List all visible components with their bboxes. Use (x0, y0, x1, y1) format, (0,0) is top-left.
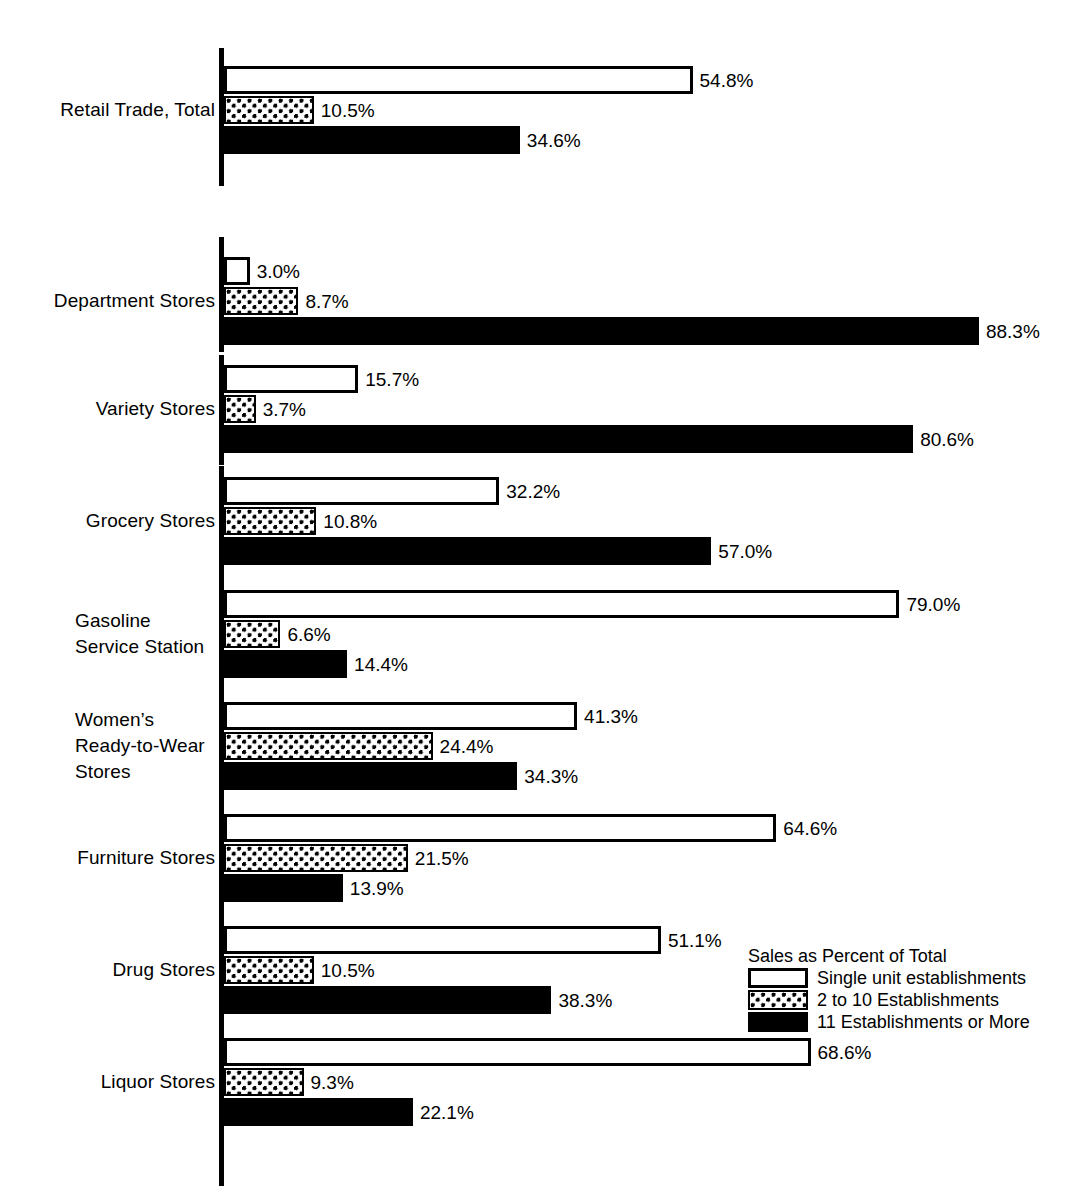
category-label-line: Retail Trade, Total (0, 97, 215, 123)
bar-grocery-stores-eleven (224, 537, 711, 565)
bar-variety-stores-multi (224, 395, 256, 423)
bar-furniture-stores-multi (224, 844, 408, 872)
value-label-grocery-stores-eleven: 57.0% (718, 542, 772, 561)
bar-liquor-stores-single (224, 1038, 811, 1066)
value-label-liquor-stores-single: 68.6% (818, 1043, 872, 1062)
value-label-womens-ready-to-wear-stores-eleven: 34.3% (524, 767, 578, 786)
value-label-drug-stores-multi: 10.5% (321, 961, 375, 980)
bar-variety-stores-single (224, 365, 358, 393)
value-label-furniture-stores-multi: 21.5% (415, 849, 469, 868)
bar-drug-stores-eleven (224, 986, 551, 1014)
value-label-gasoline-service-station-single: 79.0% (906, 595, 960, 614)
bar-drug-stores-single (224, 926, 661, 954)
category-label-womens-ready-to-wear-stores: Women’sReady-to-WearStores (75, 707, 215, 785)
category-label-line: Variety Stores (0, 396, 215, 422)
value-label-variety-stores-eleven: 80.6% (920, 430, 974, 449)
value-label-drug-stores-eleven: 38.3% (558, 991, 612, 1010)
value-label-retail-trade-total-single: 54.8% (700, 71, 754, 90)
value-label-gasoline-service-station-eleven: 14.4% (354, 655, 408, 674)
value-label-gasoline-service-station-multi: 6.6% (287, 625, 330, 644)
bar-gasoline-service-station-single (224, 590, 899, 618)
category-label-line: Service Station (75, 634, 215, 660)
value-label-grocery-stores-multi: 10.8% (323, 512, 377, 531)
category-label-gasoline-service-station: GasolineService Station (75, 608, 215, 660)
bar-retail-trade-total-multi (224, 96, 314, 124)
bar-furniture-stores-eleven (224, 874, 343, 902)
value-label-department-stores-single: 3.0% (257, 262, 300, 281)
bar-drug-stores-multi (224, 956, 314, 984)
bar-chart: 54.8%10.5%34.6%Retail Trade, Total3.0%8.… (0, 0, 1073, 1204)
legend-label-eleven: 11 Establishments or More (817, 1011, 1030, 1033)
value-label-womens-ready-to-wear-stores-single: 41.3% (584, 707, 638, 726)
legend-swatch-eleven (748, 1012, 808, 1032)
legend-label-multi: 2 to 10 Establishments (817, 989, 999, 1011)
category-label-line: Women’s (75, 707, 215, 733)
bar-furniture-stores-single (224, 814, 776, 842)
value-label-variety-stores-multi: 3.7% (263, 400, 306, 419)
legend-label-single: Single unit establishments (817, 967, 1026, 989)
category-label-line: Ready-to-Wear (75, 733, 215, 759)
category-label-furniture-stores: Furniture Stores (0, 845, 215, 871)
category-label-drug-stores: Drug Stores (0, 957, 215, 983)
category-label-liquor-stores: Liquor Stores (0, 1069, 215, 1095)
category-label-variety-stores: Variety Stores (0, 396, 215, 422)
bar-department-stores-eleven (224, 317, 979, 345)
value-label-drug-stores-single: 51.1% (668, 931, 722, 950)
legend-swatch-single (748, 968, 808, 988)
bar-gasoline-service-station-multi (224, 620, 280, 648)
bar-liquor-stores-eleven (224, 1098, 413, 1126)
value-label-womens-ready-to-wear-stores-multi: 24.4% (440, 737, 494, 756)
legend-swatch-multi (748, 990, 808, 1010)
value-label-variety-stores-single: 15.7% (365, 370, 419, 389)
category-label-grocery-stores: Grocery Stores (0, 508, 215, 534)
legend-item-single: Single unit establishments (748, 967, 1030, 989)
legend: Sales as Percent of TotalSingle unit est… (748, 945, 1030, 1033)
value-label-department-stores-multi: 8.7% (305, 292, 348, 311)
value-label-grocery-stores-single: 32.2% (506, 482, 560, 501)
bar-grocery-stores-multi (224, 507, 316, 535)
value-label-retail-trade-total-eleven: 34.6% (527, 131, 581, 150)
bar-womens-ready-to-wear-stores-single (224, 702, 577, 730)
value-label-liquor-stores-eleven: 22.1% (420, 1103, 474, 1122)
bar-department-stores-multi (224, 287, 298, 315)
bar-womens-ready-to-wear-stores-multi (224, 732, 433, 760)
value-label-furniture-stores-single: 64.6% (783, 819, 837, 838)
bar-department-stores-single (224, 257, 250, 285)
category-label-retail-trade-total: Retail Trade, Total (0, 97, 215, 123)
value-label-retail-trade-total-multi: 10.5% (321, 101, 375, 120)
category-label-line: Furniture Stores (0, 845, 215, 871)
category-label-line: Department Stores (0, 288, 215, 314)
bar-womens-ready-to-wear-stores-eleven (224, 762, 517, 790)
category-label-line: Liquor Stores (0, 1069, 215, 1095)
category-label-line: Grocery Stores (0, 508, 215, 534)
category-label-line: Stores (75, 759, 215, 785)
bar-gasoline-service-station-eleven (224, 650, 347, 678)
category-label-line: Drug Stores (0, 957, 215, 983)
value-label-furniture-stores-eleven: 13.9% (350, 879, 404, 898)
bar-retail-trade-total-single (224, 66, 693, 94)
value-label-department-stores-eleven: 88.3% (986, 322, 1040, 341)
legend-title: Sales as Percent of Total (748, 945, 1030, 967)
value-label-liquor-stores-multi: 9.3% (311, 1073, 354, 1092)
bar-liquor-stores-multi (224, 1068, 304, 1096)
bar-grocery-stores-single (224, 477, 499, 505)
category-label-department-stores: Department Stores (0, 288, 215, 314)
bar-variety-stores-eleven (224, 425, 913, 453)
legend-item-multi: 2 to 10 Establishments (748, 989, 1030, 1011)
bar-retail-trade-total-eleven (224, 126, 520, 154)
legend-item-eleven: 11 Establishments or More (748, 1011, 1030, 1033)
category-label-line: Gasoline (75, 608, 215, 634)
